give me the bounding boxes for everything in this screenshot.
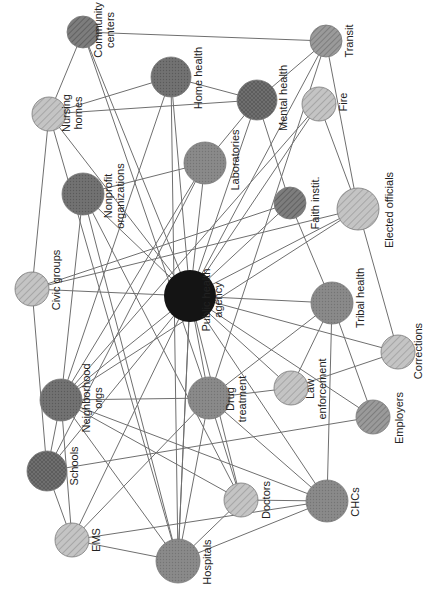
edge-civic-groups-to-schools (32, 289, 47, 471)
node-fire (302, 87, 336, 121)
node-label-line: Nonprofit (102, 174, 114, 219)
node-home-health (151, 57, 191, 97)
node-label-line: organizations (114, 163, 126, 229)
node-label-drug-treatment: Drugtreatment (224, 376, 248, 422)
edge-neighborhood-orgs-to-chcs (61, 400, 327, 501)
node-neighborhood-orgs (40, 379, 82, 421)
edge-schools-to-employers (47, 417, 373, 471)
node-label-line: Corrections (412, 322, 424, 379)
node-label-doctors: Doctors (260, 481, 272, 519)
edge-nonprofit-organizations-to-hospitals (83, 194, 178, 561)
node-hospitals (156, 539, 200, 583)
node-label-law-enforcement: Lawenforcement (304, 358, 328, 419)
edge-transit-to-elected-officials (326, 41, 358, 209)
node-label-chcs: CHCs (349, 487, 361, 517)
node-label-line: Employers (393, 392, 405, 444)
node-transit (310, 25, 342, 57)
node-label-line: Hospitals (201, 539, 213, 585)
node-label-mental-health: Mental health (277, 65, 289, 131)
node-label-line: Doctors (260, 481, 272, 519)
node-label-line: agency (212, 282, 224, 318)
node-label-line: Mental health (277, 65, 289, 131)
node-label-ems: EMS (90, 528, 102, 552)
node-label-community-centers: Communitycenters (92, 2, 116, 58)
node-label-tribal-health: Tribal health (354, 268, 366, 328)
node-civic-groups (15, 272, 49, 306)
node-label-line: Laboratories (229, 129, 241, 191)
node-label-civic-groups: Civic groups (50, 249, 62, 310)
node-label-line: Home health (192, 47, 204, 109)
node-label-line: centers (104, 11, 116, 48)
node-label-transit: Transit (343, 24, 355, 57)
node-label-laboratories: Laboratories (229, 129, 241, 191)
node-label-line: Faith instit. (309, 176, 321, 229)
node-label-line: Public health (200, 269, 212, 332)
node-label-line: Community (92, 2, 104, 58)
node-label-faith-institutions: Faith instit. (309, 176, 321, 229)
edge-nursing-homes-to-civic-groups (32, 114, 49, 289)
node-label-line: orgs (92, 387, 104, 409)
node-label-nursing-homes: Nursinghomes (60, 94, 84, 132)
node-label-line: enforcement (316, 358, 328, 419)
node-label-fire: Fire (337, 93, 349, 112)
node-chcs (306, 480, 348, 522)
edge-community-centers-to-transit (83, 32, 326, 41)
node-label-elected-officials: Elected officials (383, 171, 395, 248)
node-label-line: EMS (90, 528, 102, 552)
node-label-line: CHCs (349, 487, 361, 517)
node-label-employers: Employers (393, 392, 405, 444)
node-laboratories (184, 142, 226, 184)
node-ems (55, 523, 89, 557)
node-label-line: Nursing (60, 94, 72, 132)
node-label-line: homes (72, 96, 84, 130)
node-label-schools: Schools (68, 446, 80, 486)
network-diagram: Public healthagencyCommunitycentersHome … (0, 0, 431, 610)
node-faith-institutions (274, 187, 306, 219)
node-schools (27, 451, 67, 491)
node-label-home-health: Home health (192, 47, 204, 109)
node-label-line: Schools (68, 446, 80, 486)
node-label-line: Neighborhood (80, 363, 92, 432)
node-law-enforcement (274, 371, 308, 405)
node-mental-health (237, 80, 277, 120)
node-label-line: Drug (224, 387, 236, 411)
node-employers (356, 400, 390, 434)
node-label-line: Civic groups (50, 249, 62, 310)
node-tribal-health (311, 282, 353, 324)
node-label-nonprofit-organizations: Nonprofitorganizations (102, 163, 126, 229)
edge-faith-institutions-to-civic-groups (32, 203, 290, 289)
network-canvas: Public healthagencyCommunitycentersHome … (0, 0, 431, 610)
node-label-hospitals: Hospitals (201, 539, 213, 585)
node-label-line: Law (304, 379, 316, 399)
edge-ems-to-chcs (72, 501, 327, 540)
node-label-line: treatment (236, 376, 248, 422)
node-label-corrections: Corrections (412, 322, 424, 379)
node-label-line: Tribal health (354, 268, 366, 328)
node-nonprofit-organizations (62, 173, 104, 215)
node-elected-officials (337, 188, 379, 230)
edge-ems-to-drug-treatment (72, 398, 209, 540)
node-corrections (381, 335, 415, 369)
node-label-line: Transit (343, 24, 355, 57)
node-label-public-health-agency: Public healthagency (200, 269, 224, 332)
node-doctors (224, 483, 258, 517)
node-label-line: Elected officials (383, 171, 395, 248)
node-label-line: Fire (337, 93, 349, 112)
